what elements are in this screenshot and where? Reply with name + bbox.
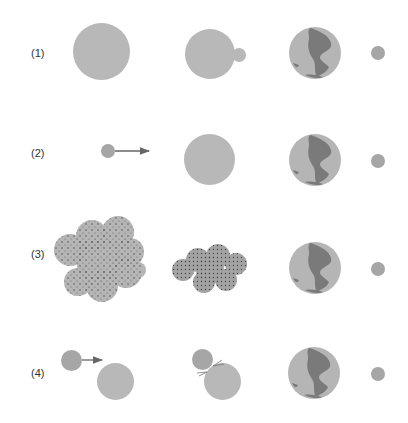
earth-icon xyxy=(288,347,340,399)
earth-icon xyxy=(289,27,341,79)
condensed-cloud xyxy=(172,244,247,293)
particle-cloud xyxy=(54,216,146,302)
earth-icon xyxy=(289,134,341,186)
earth-icon xyxy=(289,242,341,294)
diagram-graphics xyxy=(0,0,408,423)
